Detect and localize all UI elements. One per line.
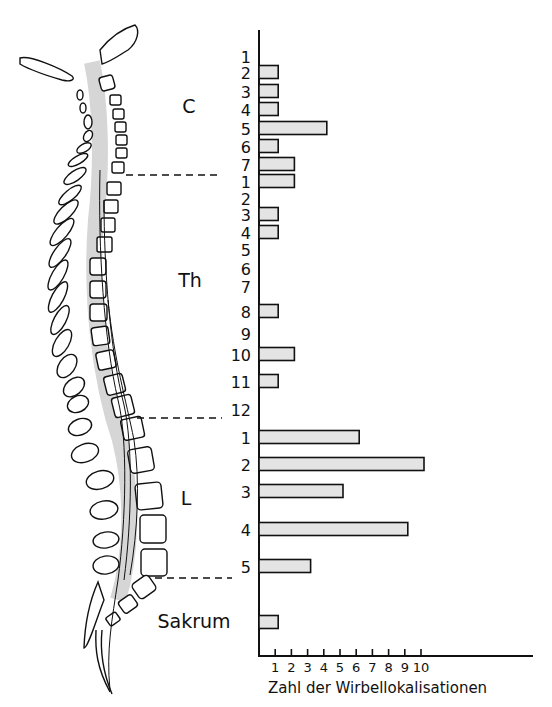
category-label-th-5: 5 (241, 241, 251, 260)
bar-c-6 (259, 140, 278, 153)
bar-l-5 (259, 560, 311, 573)
region-label-c: C (182, 95, 195, 117)
category-label-th-10: 10 (231, 346, 251, 365)
category-label-l-2: 2 (241, 456, 251, 475)
category-label-c-2: 2 (241, 64, 251, 83)
bar-l-3 (259, 485, 343, 498)
category-label-th-9: 9 (241, 325, 251, 344)
category-label-l-5: 5 (241, 558, 251, 577)
category-label-th-7: 7 (241, 278, 251, 297)
category-label-c-6: 6 (241, 138, 251, 157)
category-label-l-3: 3 (241, 483, 251, 502)
region-label-sakrum: Sakrum (157, 610, 230, 632)
x-tick-label: 10 (413, 660, 430, 675)
x-tick-label: 2 (287, 660, 295, 675)
x-tick-label: 6 (352, 660, 360, 675)
category-label-l-4: 4 (241, 521, 251, 540)
bar-th-1 (259, 175, 294, 188)
bar-th-10 (259, 348, 294, 361)
bar-sakrum (259, 616, 278, 629)
bar-c-4 (259, 103, 278, 116)
bar-th-4 (259, 226, 278, 239)
category-label-th-8: 8 (241, 303, 251, 322)
bar-c-2 (259, 66, 278, 79)
x-tick-label: 7 (368, 660, 376, 675)
bar-th-11 (259, 375, 278, 388)
x-axis-tick-labels: 12345678910 (271, 660, 429, 675)
spine-illustration (20, 25, 167, 694)
category-labels: 123456712345678910111212345 (231, 48, 251, 577)
bar-c-3 (259, 85, 278, 98)
x-tick-label: 4 (320, 660, 328, 675)
x-tick-label: 8 (384, 660, 392, 675)
bar-th-8 (259, 305, 278, 318)
category-label-th-6: 6 (241, 260, 251, 279)
bar-c-5 (259, 122, 327, 135)
bar-c-7 (259, 158, 294, 171)
category-label-c-4: 4 (241, 101, 251, 120)
category-label-th-11: 11 (231, 373, 251, 392)
x-tick-label: 5 (336, 660, 344, 675)
bar-l-4 (259, 523, 408, 536)
figure: C Th L Sakrum 12345678910 Zahl der Wirbe… (0, 0, 552, 707)
region-label-th: Th (177, 269, 202, 291)
bar-l-1 (259, 431, 359, 444)
category-label-c-5: 5 (241, 120, 251, 139)
x-tick-label: 3 (303, 660, 311, 675)
category-label-th-3: 3 (241, 206, 251, 225)
category-label-l-1: 1 (241, 429, 251, 448)
x-tick-label: 1 (271, 660, 279, 675)
category-label-th-12: 12 (231, 401, 251, 420)
x-axis-ticks (275, 649, 421, 656)
bars (259, 66, 424, 629)
x-tick-label: 9 (401, 660, 409, 675)
bar-l-2 (259, 458, 424, 471)
category-label-c-3: 3 (241, 83, 251, 102)
x-axis-title: Zahl der Wirbellokalisationen (268, 679, 487, 697)
bar-th-3 (259, 208, 278, 221)
region-label-l: L (181, 487, 192, 509)
